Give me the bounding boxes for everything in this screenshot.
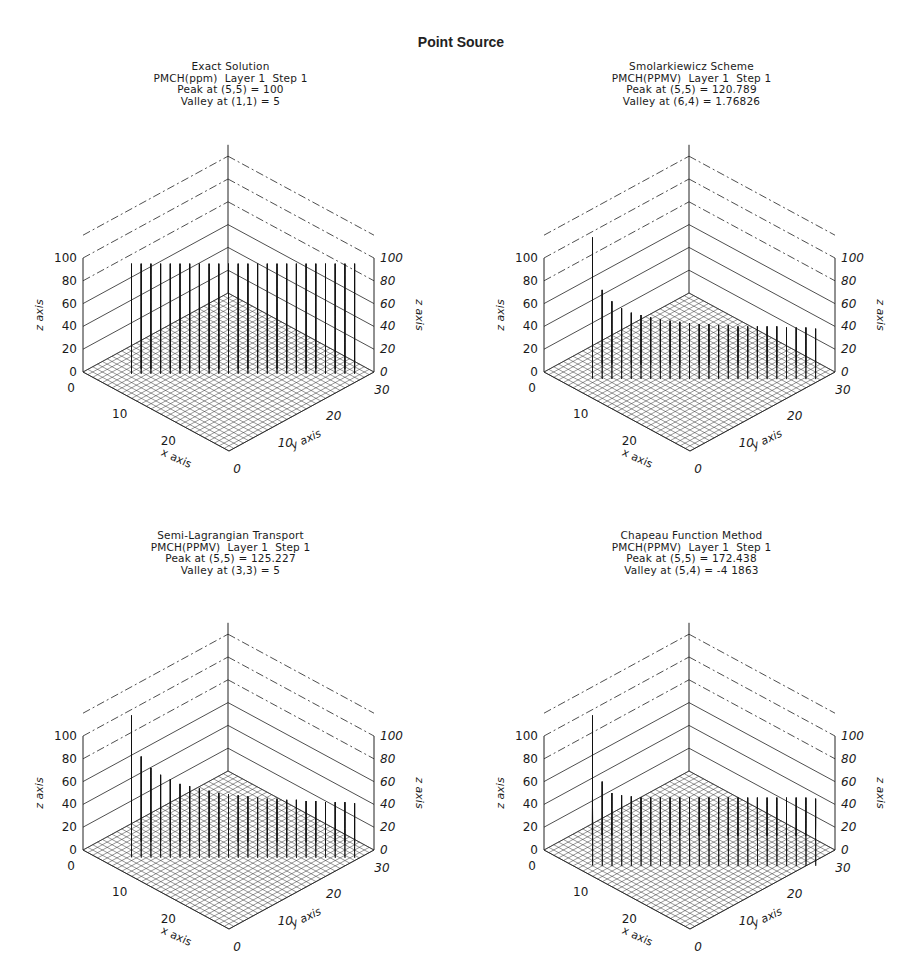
z-tick-left: 100	[54, 729, 77, 743]
z-tick-right: 40	[841, 319, 857, 333]
z-tick-left: 20	[523, 820, 538, 834]
z-tick-right: 60	[841, 775, 857, 789]
y-tick: 30	[374, 861, 390, 875]
panel-semi-lagrangian-transport: Semi-Lagrangian Transport PMCH(PPMV) Lay…	[0, 480, 461, 950]
panel-smolarkiewicz-scheme: Smolarkiewicz Scheme PMCH(PPMV) Layer 1 …	[461, 0, 922, 470]
z-tick-right: 0	[841, 843, 849, 857]
panel-chapeau-function-method: Chapeau Function Method PMCH(PPMV) Layer…	[461, 480, 922, 950]
z-tick-left: 80	[523, 752, 538, 766]
x-tick: 0	[67, 381, 75, 395]
z-tick-left: 20	[523, 342, 538, 356]
z-tick-right: 100	[841, 729, 864, 743]
z-tick-left: 40	[62, 319, 77, 333]
z-tick-right: 40	[380, 319, 396, 333]
x-tick: 0	[528, 381, 536, 395]
z-tick-left: 0	[69, 365, 77, 379]
surface-plot: 002020404060608080100100010200102030x ax…	[461, 480, 922, 960]
x-tick: 10	[573, 885, 588, 899]
z-tick-right: 80	[380, 274, 396, 288]
x-tick: 10	[112, 885, 127, 899]
y-tick: 0	[233, 940, 241, 954]
z-tick-right: 60	[380, 775, 396, 789]
z-axis-label-right: z axis	[413, 298, 426, 331]
z-tick-right: 0	[841, 365, 849, 379]
z-tick-left: 60	[523, 297, 538, 311]
surface-ridges	[592, 716, 815, 866]
z-axis-label-right: z axis	[874, 298, 887, 331]
y-tick: 0	[694, 462, 702, 476]
z-tick-right: 20	[380, 342, 396, 356]
y-axis-label: y axis	[749, 427, 785, 453]
z-tick-left: 20	[62, 820, 77, 834]
z-tick-right: 40	[380, 797, 396, 811]
z-tick-right: 80	[841, 274, 857, 288]
y-tick: 0	[694, 940, 702, 954]
x-axis-label: x axis	[159, 446, 194, 471]
z-tick-right: 0	[380, 843, 388, 857]
y-axis-label: y axis	[749, 905, 785, 931]
z-tick-left: 80	[62, 274, 77, 288]
surface-plot: 002020404060608080100100010200102030x ax…	[0, 0, 461, 480]
x-tick: 10	[112, 407, 127, 421]
y-tick: 30	[835, 861, 851, 875]
z-axis-label-left: z axis	[33, 299, 46, 332]
z-tick-right: 20	[380, 820, 396, 834]
x-axis-label: x axis	[159, 924, 194, 949]
z-tick-left: 0	[530, 843, 538, 857]
z-tick-left: 40	[62, 797, 77, 811]
z-tick-right: 100	[380, 729, 403, 743]
z-axis-label-left: z axis	[33, 777, 46, 810]
z-tick-right: 100	[380, 251, 403, 265]
z-tick-right: 80	[380, 752, 396, 766]
z-axis-label-right: z axis	[413, 776, 426, 809]
z-tick-right: 20	[841, 342, 857, 356]
z-axis-label-left: z axis	[494, 777, 507, 810]
x-tick: 20	[622, 912, 637, 926]
z-tick-left: 60	[523, 775, 538, 789]
surface-plot: 002020404060608080100100010200102030x ax…	[461, 0, 922, 480]
x-tick: 10	[573, 407, 588, 421]
y-axis-label: y axis	[288, 427, 324, 453]
x-axis-label: x axis	[620, 924, 655, 949]
panel-exact-solution: Exact Solution PMCH(ppm) Layer 1 Step 1 …	[0, 0, 461, 470]
z-tick-left: 60	[62, 297, 77, 311]
z-tick-right: 100	[841, 251, 864, 265]
z-tick-left: 40	[523, 797, 538, 811]
surface-ridges	[132, 264, 355, 374]
z-tick-left: 0	[530, 365, 538, 379]
z-tick-right: 40	[841, 797, 857, 811]
y-tick: 20	[326, 887, 342, 901]
z-tick-left: 80	[523, 274, 538, 288]
z-tick-right: 60	[841, 297, 857, 311]
surface-plot: 002020404060608080100100010200102030x ax…	[0, 480, 461, 960]
z-tick-left: 100	[515, 251, 538, 265]
y-tick: 20	[787, 409, 803, 423]
x-axis-label: x axis	[620, 446, 655, 471]
y-axis-label: y axis	[288, 905, 324, 931]
x-tick: 20	[622, 434, 637, 448]
z-tick-right: 60	[380, 297, 396, 311]
z-tick-left: 20	[62, 342, 77, 356]
x-tick: 20	[161, 434, 176, 448]
x-tick: 20	[161, 912, 176, 926]
y-tick: 30	[374, 383, 390, 397]
z-tick-left: 60	[62, 775, 77, 789]
z-tick-right: 20	[841, 820, 857, 834]
z-tick-left: 80	[62, 752, 77, 766]
z-tick-left: 100	[54, 251, 77, 265]
y-tick: 30	[835, 383, 851, 397]
x-tick: 0	[528, 859, 536, 873]
z-axis-label-right: z axis	[874, 776, 887, 809]
z-tick-left: 0	[69, 843, 77, 857]
z-tick-left: 40	[523, 319, 538, 333]
y-tick: 0	[233, 462, 241, 476]
y-tick: 20	[326, 409, 342, 423]
z-tick-right: 80	[841, 752, 857, 766]
z-tick-left: 100	[515, 729, 538, 743]
y-tick: 20	[787, 887, 803, 901]
x-tick: 0	[67, 859, 75, 873]
z-axis-label-left: z axis	[494, 299, 507, 332]
z-tick-right: 0	[380, 365, 388, 379]
